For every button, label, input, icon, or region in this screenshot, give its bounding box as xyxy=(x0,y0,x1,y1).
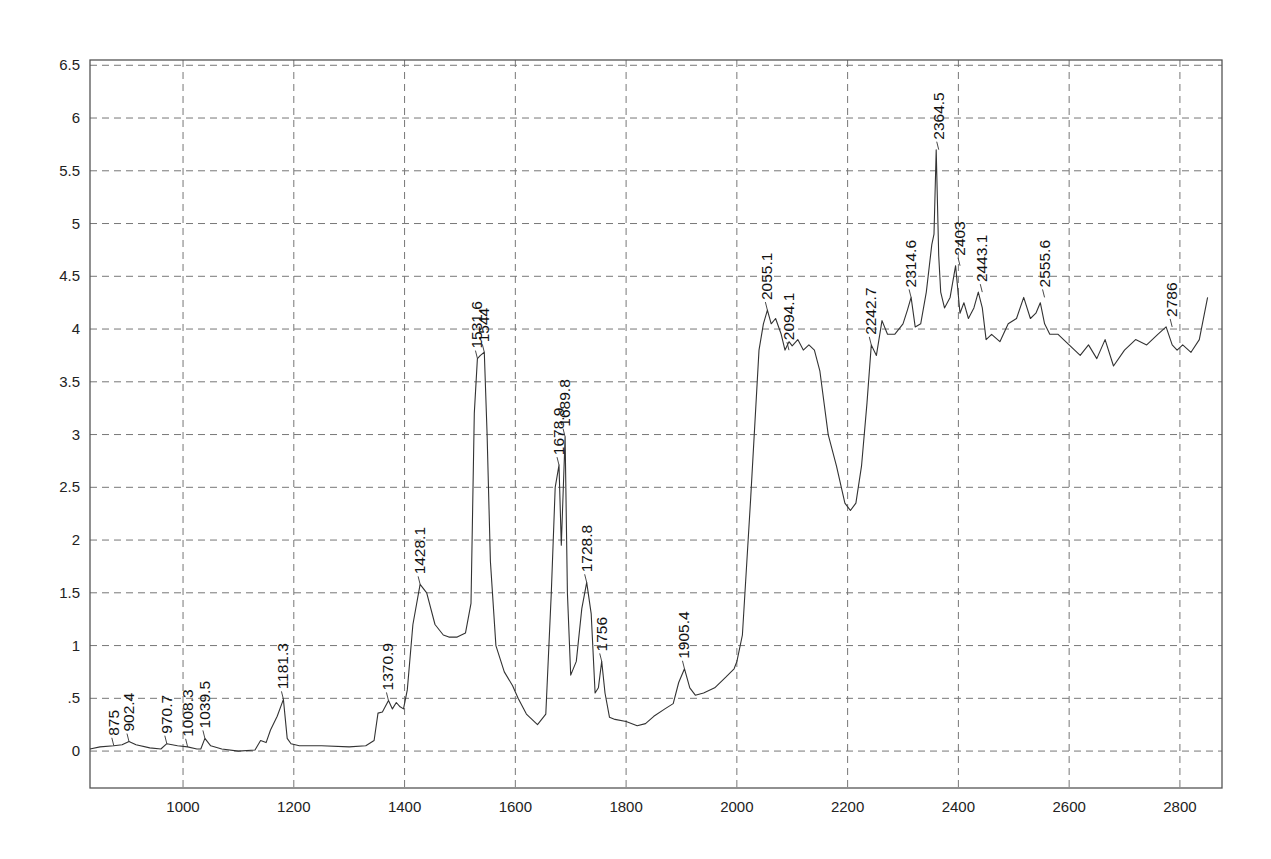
x-tick-label: 1800 xyxy=(609,798,642,815)
x-tick-label: 2600 xyxy=(1052,798,1085,815)
x-axis-ticks: 1000120014001600180020002200240026002800 xyxy=(166,798,1196,815)
peak-label: 1039.5 xyxy=(196,681,213,738)
peak-label: 2364.5 xyxy=(930,92,947,149)
x-tick-label: 2200 xyxy=(831,798,864,815)
peak-label: 1370.9 xyxy=(379,643,396,700)
peak-label-text: 1689.8 xyxy=(556,379,573,426)
y-tick-label: 5 xyxy=(72,215,80,232)
peak-label-text: 1905.4 xyxy=(675,611,692,659)
y-tick-label: 1.5 xyxy=(59,584,80,601)
y-tick-label: 3.5 xyxy=(59,373,80,390)
y-tick-label: 6 xyxy=(72,109,80,126)
y-tick-label: 2 xyxy=(72,531,80,548)
peak-label: 2242.7 xyxy=(862,287,879,344)
peak-label: 970.7 xyxy=(158,695,175,744)
peak-label: 1428.1 xyxy=(411,527,428,584)
peak-label: 1181.3 xyxy=(274,643,291,699)
peak-label-text: 1039.5 xyxy=(196,681,213,728)
y-tick-label: 0 xyxy=(72,742,80,759)
peak-label-text: 1181.3 xyxy=(274,643,291,689)
peak-label-text: 2314.6 xyxy=(902,240,919,287)
peak-label-text: 2094.1 xyxy=(780,293,797,340)
peak-label: 2786 xyxy=(1163,282,1180,326)
y-axis-ticks: 0.511.522.533.544.555.566.5 xyxy=(59,56,80,759)
peak-labels: 875902.4970.71008.31039.51181.31370.9142… xyxy=(105,92,1180,747)
y-tick-label: 4.5 xyxy=(59,267,80,284)
y-tick-label: 2.5 xyxy=(59,478,80,495)
plot-frame xyxy=(90,60,1222,788)
peak-label-text: 2786 xyxy=(1163,282,1180,316)
peak-label: 2055.1 xyxy=(758,253,775,310)
peak-label: 2314.6 xyxy=(902,240,919,297)
peak-label-text: 2242.7 xyxy=(862,287,879,334)
x-tick-label: 2800 xyxy=(1163,798,1196,815)
peak-label-text: 2443.1 xyxy=(973,235,990,282)
x-tick-label: 1000 xyxy=(166,798,199,815)
x-tick-label: 2000 xyxy=(720,798,753,815)
x-tick-label: 1600 xyxy=(499,798,532,815)
y-tick-label: .5 xyxy=(67,689,80,706)
grid-lines xyxy=(90,60,1222,788)
x-tick-label: 1400 xyxy=(388,798,421,815)
peak-label-text: 2555.6 xyxy=(1036,240,1053,287)
peak-label: 2555.6 xyxy=(1036,240,1053,297)
peak-label-text: 1728.8 xyxy=(578,525,595,572)
peak-label-text: 1756 xyxy=(593,617,610,651)
peak-label: 2403 xyxy=(951,221,968,265)
peak-label-text: 1008.3 xyxy=(179,689,196,736)
peak-label-text: 1370.9 xyxy=(379,643,396,690)
y-tick-label: 4 xyxy=(72,320,80,337)
peak-label-text: 902.4 xyxy=(120,692,137,731)
y-tick-label: 3 xyxy=(72,426,80,443)
peak-label: 1008.3 xyxy=(179,689,196,746)
peak-label: 1728.8 xyxy=(578,525,595,582)
x-tick-label: 1200 xyxy=(277,798,310,815)
peak-label: 1756 xyxy=(593,617,610,661)
peak-label: 902.4 xyxy=(120,692,137,741)
peak-label: 2443.1 xyxy=(973,235,990,292)
y-tick-label: 6.5 xyxy=(59,56,80,73)
y-tick-label: 1 xyxy=(72,637,80,654)
spectrum-chart: 0.511.522.533.544.555.566.5 100012001400… xyxy=(0,0,1271,859)
spectrum-line xyxy=(90,150,1208,751)
peak-label-text: 2055.1 xyxy=(758,253,775,300)
peak-label-text: 1544 xyxy=(475,307,492,342)
y-tick-label: 5.5 xyxy=(59,162,80,179)
peak-label-text: 970.7 xyxy=(158,695,175,734)
peak-label-text: 1428.1 xyxy=(411,527,428,574)
x-tick-label: 2400 xyxy=(942,798,975,815)
peak-label: 1905.4 xyxy=(675,611,692,669)
peak-label-text: 2364.5 xyxy=(930,92,947,139)
peak-label-text: 2403 xyxy=(951,221,968,255)
